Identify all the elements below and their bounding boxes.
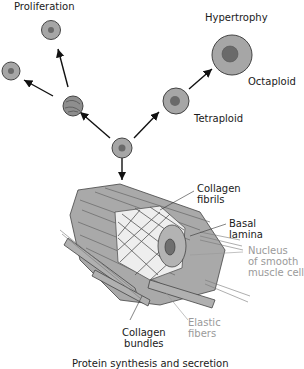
cell-octaploid (212, 35, 252, 75)
arrows (24, 49, 212, 180)
cell-central (112, 138, 132, 158)
label-octaploid: Octaploid (248, 76, 296, 87)
label-proliferation: Proliferation (14, 1, 75, 12)
label-tetraploid: Tetraploid (194, 113, 243, 124)
label-nucleus: Nucleus of smooth muscle cell (248, 245, 304, 278)
cell-proliferation-left (2, 62, 20, 80)
label-collagen-bundles: Collagen bundles (122, 327, 166, 349)
cell-tetraploid (163, 88, 189, 114)
label-protein-synthesis: Protein synthesis and secretion (72, 358, 229, 369)
label-elastic-fibers: Elastic fibers (188, 317, 221, 339)
label-basal-lamina: Basal lamina (229, 218, 263, 240)
label-hypertrophy: Hypertrophy (205, 12, 268, 23)
cell-dividing (63, 96, 83, 116)
label-collagen-fibrils: Collagen fibrils (197, 183, 241, 205)
cell-proliferation-top (42, 21, 61, 40)
